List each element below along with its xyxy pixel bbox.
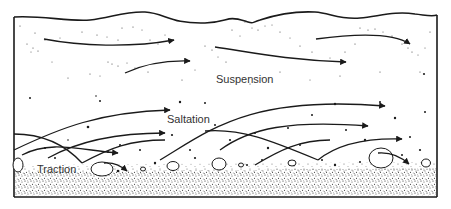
suspension-arrow-2	[125, 61, 190, 73]
saltation-path-3	[205, 131, 318, 160]
suspension-arrow-4	[316, 35, 410, 44]
saltation-path-2	[82, 140, 165, 163]
saltation-label: Saltation	[167, 114, 210, 125]
pebble	[167, 162, 179, 171]
water-surface-line	[14, 12, 437, 23]
pebble	[141, 167, 146, 171]
pebble	[422, 159, 431, 167]
saltation-arrow-1	[14, 110, 170, 150]
pebble	[13, 158, 23, 172]
pebble	[239, 163, 244, 167]
pebble	[369, 148, 393, 168]
pebble	[91, 162, 113, 176]
suspension-arrows	[44, 35, 410, 73]
saltation-arrow-3	[22, 147, 118, 155]
saltation-arrow-2	[48, 133, 165, 158]
saltation-path-1	[14, 134, 82, 163]
pebble	[288, 160, 296, 166]
pebble	[212, 158, 226, 170]
suspension-arrow-1	[44, 39, 174, 45]
saltation-particles	[29, 95, 426, 172]
traction-label: Traction	[37, 164, 76, 175]
sediment-transport-diagram	[0, 0, 451, 209]
suspension-label: Suspension	[216, 74, 274, 85]
suspension-arrow-3	[215, 47, 346, 62]
